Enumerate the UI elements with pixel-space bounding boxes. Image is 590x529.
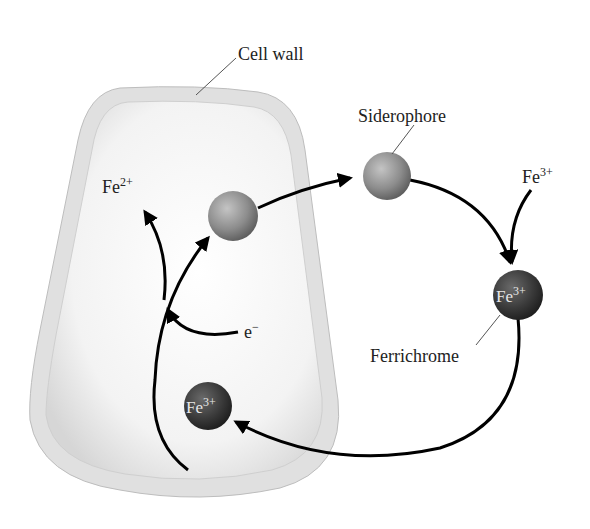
fe3-free-label: Fe3+ xyxy=(522,165,553,187)
arrow-siderophore-to-ferrichrome xyxy=(410,180,510,262)
ferrichrome-label: Ferrichrome xyxy=(370,346,459,366)
siderophore-label: Siderophore xyxy=(358,106,446,126)
siderophore-leader xyxy=(392,125,414,154)
siderophore-ball xyxy=(363,152,411,200)
siderophore-iron-uptake-diagram: Cell wall Siderophore Fe3+ Fe2+ e− Fe3+ … xyxy=(0,0,590,529)
cell-wall-label: Cell wall xyxy=(238,44,304,64)
siderophore-ball-inner xyxy=(208,191,258,241)
arrow-fe3-binding xyxy=(511,190,531,262)
ferrichrome-leader xyxy=(476,315,500,345)
